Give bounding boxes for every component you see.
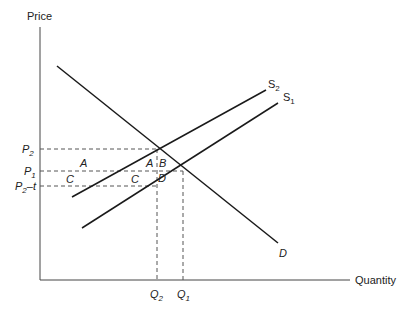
p2-minus-t-label: P2–t (15, 180, 37, 195)
s2-label: S2 (268, 78, 280, 93)
demand-curve (57, 66, 278, 243)
area-c-right: C (131, 173, 139, 185)
area-b: B (159, 157, 166, 169)
q2-label: Q2 (150, 288, 164, 303)
demand-label: D (279, 247, 287, 259)
supply-curve-s2 (72, 90, 266, 197)
area-a-left: A (79, 157, 87, 169)
area-a-right: A (145, 157, 153, 169)
x-axis-label: Quantity (355, 274, 396, 286)
y-axis-label: Price (27, 10, 52, 22)
supply-demand-diagram: Price Quantity S2 S1 D P2 P1 P2–t Q2 Q1 … (0, 0, 404, 311)
p2-label: P2 (22, 143, 34, 158)
q1-label: Q1 (177, 288, 190, 303)
s1-label: S1 (283, 91, 295, 106)
p1-label: P1 (24, 165, 36, 180)
area-c-left: C (66, 173, 74, 185)
supply-curve-s1 (82, 103, 278, 228)
area-d: D (158, 172, 166, 184)
